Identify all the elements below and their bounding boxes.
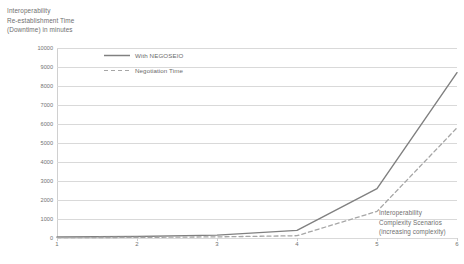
- x-axis-tick-label: 1: [55, 241, 58, 247]
- y-axis-tick-label: 3000: [41, 178, 53, 184]
- legend-item[interactable]: Negotiation Time: [104, 66, 183, 75]
- y-axis-title-line-3: (Downtime) in minutes: [7, 25, 74, 35]
- y-axis-tick-label: 0: [50, 235, 53, 241]
- y-axis-tick-label: 10000: [37, 45, 53, 51]
- y-axis-tick-label: 5000: [41, 140, 53, 146]
- y-axis-title: Interoperability Re-establishment Time (…: [7, 6, 74, 35]
- legend-item[interactable]: With NEGOSEIO: [104, 51, 183, 60]
- y-axis-tick-label: 8000: [41, 83, 53, 89]
- x-axis-tick-label: 2: [135, 241, 138, 247]
- x-axis-title-line-1: Interoperability: [379, 208, 446, 218]
- x-axis-title: Interoperability Complexity Scenarios (i…: [379, 208, 446, 237]
- legend-swatch-icon: [104, 67, 130, 74]
- chart-container: Interoperability Re-establishment Time (…: [0, 0, 464, 264]
- x-axis-tick-label: 5: [375, 241, 378, 247]
- x-axis-title-line-2: Complexity Scenarios: [379, 218, 446, 228]
- x-axis-tick-label: 3: [215, 241, 218, 247]
- x-axis-tick-labels: 123456: [57, 241, 457, 255]
- y-axis-tick-label: 4000: [41, 159, 53, 165]
- legend-label: With NEGOSEIO: [135, 52, 183, 59]
- y-axis-tick-label: 7000: [41, 102, 53, 108]
- legend-swatch-icon: [104, 52, 130, 59]
- y-axis-tick-label: 2000: [41, 197, 53, 203]
- y-axis-tick-label: 6000: [41, 121, 53, 127]
- x-axis-title-line-3: (increasing complexity): [379, 227, 446, 237]
- gridline: [57, 238, 457, 239]
- chart-legend: With NEGOSEIONegotiation Time: [104, 51, 183, 75]
- y-axis-title-line-1: Interoperability: [7, 6, 74, 16]
- x-axis-tick-label: 6: [455, 241, 458, 247]
- y-axis-tick-label: 1000: [41, 216, 53, 222]
- y-axis-tick-label: 9000: [41, 64, 53, 70]
- y-axis-tick-labels: 0100020003000400050006000700080009000100…: [10, 48, 53, 238]
- x-axis-tick-label: 4: [295, 241, 298, 247]
- legend-label: Negotiation Time: [135, 67, 183, 74]
- y-axis-title-line-2: Re-establishment Time: [7, 16, 74, 26]
